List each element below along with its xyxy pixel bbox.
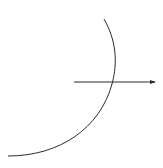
diagram-canvas [0,0,163,168]
curved-surface-arc [8,19,115,156]
